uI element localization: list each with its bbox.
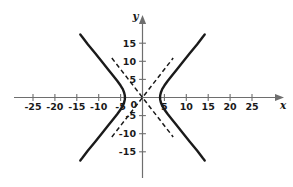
- y-tick-label: 15: [123, 38, 136, 49]
- x-tick-label: 25: [245, 101, 258, 112]
- x-tick-label: 20: [223, 101, 237, 112]
- y-tick-label: -10: [119, 128, 137, 139]
- y-tick-label: -5: [125, 110, 136, 121]
- x-tick-label: -10: [90, 101, 108, 112]
- y-tick-label: 5: [129, 74, 136, 85]
- coordinate-plane-svg: -25-20-15-10-5510152025 15105-5-10-15 0 …: [0, 0, 293, 187]
- x-tick-label: -15: [68, 101, 85, 112]
- x-tick-label: -20: [46, 101, 64, 112]
- x-tick-label: 15: [202, 101, 215, 112]
- y-tick-label: 10: [123, 56, 137, 67]
- x-axis-label: x: [279, 99, 287, 111]
- y-axis-label: y: [132, 10, 140, 22]
- hyperbola-graph-figure: -25-20-15-10-5510152025 15105-5-10-15 0 …: [0, 0, 293, 187]
- x-tick-label: -25: [24, 101, 41, 112]
- y-tick-label: -15: [119, 146, 136, 157]
- x-tick-label: 5: [161, 101, 168, 112]
- x-tick-label: -5: [115, 101, 126, 112]
- origin-label: 0: [130, 99, 137, 110]
- x-tick-label: 10: [180, 101, 194, 112]
